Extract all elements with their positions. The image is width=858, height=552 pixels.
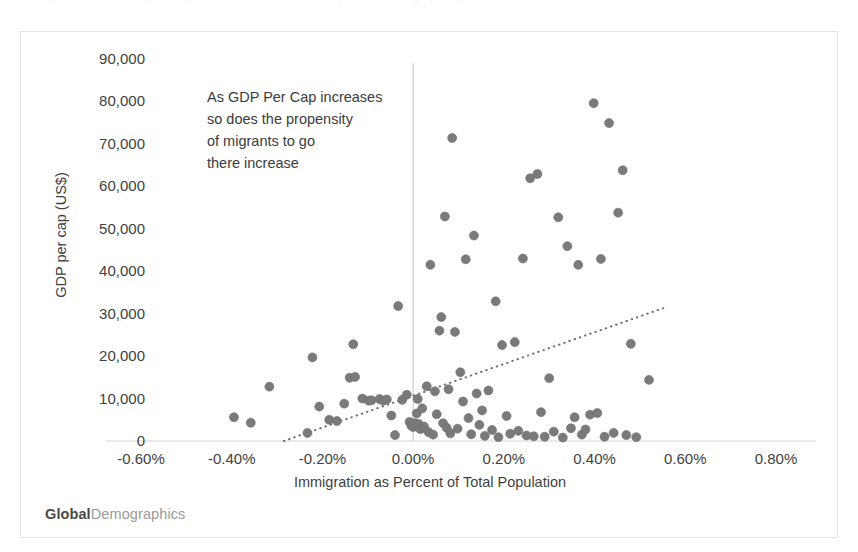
scatter-point[interactable] — [472, 389, 481, 398]
top-clipped-text-strip: Immigration and GDP per Capita — scatter… — [0, 0, 858, 18]
scatter-point[interactable] — [614, 208, 623, 217]
scatter-point[interactable] — [540, 432, 549, 441]
scatter-point[interactable] — [510, 338, 519, 347]
scatter-point[interactable] — [589, 99, 598, 108]
scatter-point[interactable] — [593, 408, 602, 417]
scatter-point[interactable] — [480, 431, 489, 440]
scatter-point[interactable] — [478, 406, 487, 415]
scatter-point[interactable] — [484, 386, 493, 395]
x-axis-tick-labels: -0.60%-0.40%-0.20%0.00%0.20%0.40%0.60%0.… — [21, 450, 839, 474]
scatter-point[interactable] — [229, 413, 238, 422]
brand-strong-text: Global — [45, 506, 91, 522]
y-axis-tick-label: 50,000 — [65, 221, 145, 236]
scatter-point[interactable] — [429, 430, 438, 439]
scatter-point[interactable] — [426, 260, 435, 269]
scatter-point[interactable] — [498, 341, 507, 350]
scatter-point[interactable] — [622, 431, 631, 440]
scatter-point[interactable] — [549, 427, 558, 436]
scatter-point[interactable] — [600, 432, 609, 441]
x-axis-tick-label: 0.20% — [459, 450, 549, 468]
scatter-point[interactable] — [502, 411, 511, 420]
y-axis-tick-label: 40,000 — [65, 263, 145, 278]
scatter-point[interactable] — [332, 417, 341, 426]
scatter-point[interactable] — [618, 166, 627, 175]
x-axis-tick-label: 0.60% — [640, 450, 730, 468]
y-axis-tick-label: 20,000 — [65, 348, 145, 363]
scatter-point[interactable] — [469, 231, 478, 240]
scatter-point[interactable] — [437, 313, 446, 322]
scatter-point[interactable] — [529, 432, 538, 441]
scatter-point[interactable] — [418, 404, 427, 413]
scatter-point[interactable] — [448, 133, 457, 142]
annotation-line: there increase — [207, 152, 422, 174]
scatter-point[interactable] — [554, 213, 563, 222]
annotation-line: so does the propensity — [207, 108, 422, 130]
scatter-point[interactable] — [574, 260, 583, 269]
scatter-point[interactable] — [464, 414, 473, 423]
scatter-point[interactable] — [349, 340, 358, 349]
scatter-point[interactable] — [315, 402, 324, 411]
scatter-point[interactable] — [545, 374, 554, 383]
scatter-point[interactable] — [581, 425, 590, 434]
brand-light-text: Demographics — [91, 506, 186, 522]
scatter-point[interactable] — [367, 396, 376, 405]
scatter-point[interactable] — [265, 382, 274, 391]
scatter-point[interactable] — [518, 254, 527, 263]
scatter-point[interactable] — [609, 428, 618, 437]
scatter-point[interactable] — [450, 327, 459, 336]
scatter-point[interactable] — [506, 429, 515, 438]
clipped-title-text: Immigration and GDP per Capita — scatter… — [22, 0, 464, 2]
x-axis-title: Immigration as Percent of Total Populati… — [21, 474, 839, 490]
scatter-point[interactable] — [475, 420, 484, 429]
scatter-point[interactable] — [387, 411, 396, 420]
annotation-line: of migrants to go — [207, 130, 422, 152]
x-axis-tick-label: -0.40% — [187, 450, 277, 468]
scatter-point[interactable] — [566, 424, 575, 433]
scatter-point[interactable] — [303, 428, 312, 437]
scatter-point[interactable] — [394, 302, 403, 311]
scatter-point[interactable] — [459, 397, 468, 406]
scatter-point[interactable] — [453, 424, 462, 433]
scatter-point[interactable] — [537, 408, 546, 417]
scatter-point[interactable] — [570, 413, 579, 422]
scatter-point[interactable] — [626, 339, 635, 348]
brand-watermark: GlobalDemographics — [45, 506, 185, 522]
scatter-point[interactable] — [563, 242, 572, 251]
y-axis-tick-label: 60,000 — [65, 178, 145, 193]
x-axis-tick-label: 0.40% — [550, 450, 640, 468]
scatter-point[interactable] — [494, 433, 503, 442]
x-axis-tick-label: -0.20% — [277, 450, 367, 468]
scatter-point[interactable] — [382, 395, 391, 404]
scatter-point[interactable] — [402, 390, 411, 399]
scatter-point[interactable] — [444, 385, 453, 394]
y-axis-tick-label: 80,000 — [65, 93, 145, 108]
scatter-point[interactable] — [632, 433, 641, 442]
scatter-point[interactable] — [413, 394, 422, 403]
scatter-point[interactable] — [467, 430, 476, 439]
scatter-point[interactable] — [461, 255, 470, 264]
scatter-point[interactable] — [246, 418, 255, 427]
y-axis-tick-label: 30,000 — [65, 306, 145, 321]
scatter-point[interactable] — [491, 297, 500, 306]
scatter-point[interactable] — [645, 375, 654, 384]
scatter-point[interactable] — [308, 353, 317, 362]
scatter-point[interactable] — [596, 254, 605, 263]
scatter-point[interactable] — [351, 372, 360, 381]
scatter-point[interactable] — [533, 170, 542, 179]
scatter-point[interactable] — [391, 431, 400, 440]
scatter-point[interactable] — [435, 326, 444, 335]
scatter-point[interactable] — [558, 433, 567, 442]
y-axis-tick-label: 70,000 — [65, 136, 145, 151]
scatter-point[interactable] — [605, 119, 614, 128]
y-axis-tick-label: 10,000 — [65, 391, 145, 406]
scatter-point[interactable] — [456, 368, 465, 377]
scatter-point[interactable] — [422, 382, 431, 391]
scatter-point[interactable] — [514, 426, 523, 435]
chart-frame: 010,00020,00030,00040,00050,00060,00070,… — [20, 31, 838, 538]
scatter-point[interactable] — [440, 212, 449, 221]
scatter-point[interactable] — [432, 410, 441, 419]
scatter-point[interactable] — [430, 387, 439, 396]
y-axis-tick-label: 0 — [65, 433, 145, 448]
scatter-point[interactable] — [340, 399, 349, 408]
scatter-point[interactable] — [488, 425, 497, 434]
